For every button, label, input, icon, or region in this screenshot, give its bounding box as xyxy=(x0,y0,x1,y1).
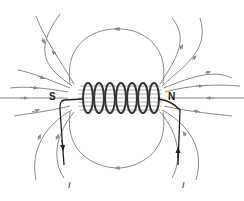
lead-wire-left xyxy=(60,99,83,165)
lead-wires xyxy=(60,99,180,165)
south-pole-label: S xyxy=(49,91,56,102)
current-label-left: I xyxy=(68,180,71,190)
north-pole-label: N xyxy=(168,91,175,102)
current-label-right: I xyxy=(182,180,185,190)
field-line-top-inner xyxy=(69,29,164,84)
solenoid-coil xyxy=(78,83,162,113)
field-lines xyxy=(0,14,244,180)
solenoid-field-diagram xyxy=(0,0,244,201)
field-line-bottom-inner xyxy=(69,112,164,168)
